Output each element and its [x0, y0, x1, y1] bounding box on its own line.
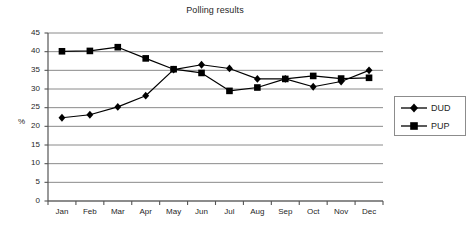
x-tick-label-jul: Jul — [214, 207, 244, 216]
x-axis-ticks — [48, 201, 383, 205]
series-line-dud — [62, 65, 369, 118]
x-tick-label-jan: Jan — [47, 207, 77, 216]
data-point-dud-jan — [59, 114, 66, 122]
data-point-pup-oct — [310, 73, 317, 80]
x-tick-label-may: May — [159, 207, 189, 216]
data-point-pup-jan — [59, 48, 66, 55]
data-point-dud-feb — [86, 111, 93, 119]
x-tick-label-feb: Feb — [75, 207, 105, 216]
data-point-dud-mar — [114, 103, 121, 111]
axis-lines — [48, 33, 383, 201]
legend-item-dud[interactable]: DUD — [395, 99, 467, 117]
data-series — [59, 44, 373, 122]
y-tick-label: 5 — [24, 177, 40, 186]
data-point-pup-jun — [198, 70, 205, 77]
x-tick-label-dec: Dec — [354, 207, 384, 216]
data-point-pup-aug — [254, 84, 261, 91]
square-marker-icon — [400, 117, 428, 135]
gridlines — [48, 33, 383, 201]
data-point-dud-jun — [198, 61, 205, 69]
y-tick-label: 15 — [24, 140, 40, 149]
x-tick-label-nov: Nov — [326, 207, 356, 216]
legend-label-dud: DUD — [431, 103, 451, 113]
data-point-pup-jul — [226, 88, 233, 95]
x-tick-label-jun: Jun — [187, 207, 217, 216]
data-point-dud-dec — [366, 66, 373, 74]
diamond-marker-icon — [400, 99, 428, 117]
x-tick-label-oct: Oct — [298, 207, 328, 216]
y-tick-label: 30 — [24, 84, 40, 93]
y-tick-label: 35 — [24, 65, 40, 74]
data-point-pup-may — [170, 66, 177, 73]
y-tick-label: 25 — [24, 102, 40, 111]
y-tick-label: 20 — [24, 121, 40, 130]
chart-legend: DUD PUP — [394, 96, 466, 136]
data-point-pup-dec — [366, 75, 373, 82]
data-point-pup-nov — [338, 75, 345, 82]
x-tick-label-apr: Apr — [131, 207, 161, 216]
series-line-pup — [62, 47, 369, 91]
data-point-pup-apr — [142, 55, 149, 62]
data-point-pup-feb — [87, 48, 94, 55]
data-point-pup-sep — [282, 76, 289, 83]
y-tick-label: 0 — [24, 196, 40, 205]
x-tick-label-mar: Mar — [103, 207, 133, 216]
x-tick-label-aug: Aug — [242, 207, 272, 216]
legend-item-pup[interactable]: PUP — [395, 117, 467, 135]
y-tick-label: 45 — [24, 28, 40, 37]
data-point-dud-jul — [226, 65, 233, 73]
x-tick-label-sep: Sep — [270, 207, 300, 216]
chart-figure: Polling results % 454035302520151050 Jan… — [0, 0, 475, 237]
legend-label-pup: PUP — [431, 121, 450, 131]
data-point-pup-mar — [114, 44, 121, 51]
y-tick-label: 40 — [24, 46, 40, 55]
data-point-dud-aug — [254, 75, 261, 83]
y-tick-label: 10 — [24, 158, 40, 167]
